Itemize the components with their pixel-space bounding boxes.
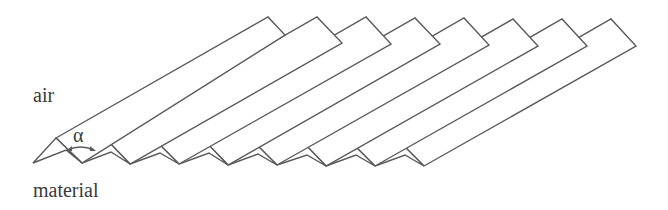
material-label: material [33,179,99,201]
air-label: air [33,84,54,106]
corrugated-surface-diagram: α air material [0,0,668,210]
angle-alpha-label: α [73,124,84,146]
ridges [33,17,636,166]
